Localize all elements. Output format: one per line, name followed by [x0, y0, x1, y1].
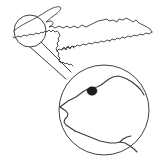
- site-marker: [87, 87, 97, 95]
- map-canvas: [0, 0, 157, 163]
- overview-north-shoreline: [14, 7, 152, 32]
- overview-inlet-hook: [57, 51, 73, 66]
- inset-group: [59, 65, 149, 155]
- overview-east-tip: [110, 32, 152, 41]
- overview-south-shoreline: [57, 40, 110, 51]
- inset-shoreline-north: [60, 76, 144, 107]
- overview-strait-detail: [62, 46, 74, 50]
- overview-bay-shoreline: [13, 30, 60, 51]
- inset-shoreline-spur: [120, 136, 131, 142]
- inset-shoreline-south: [75, 131, 137, 152]
- leader-line-upper: [41, 42, 71, 72]
- figure-root: Locator map with circular inset Line-art…: [0, 0, 157, 163]
